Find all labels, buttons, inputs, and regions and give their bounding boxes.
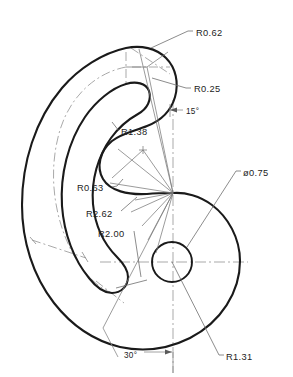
dim-label-r025: R0.25 bbox=[194, 84, 221, 94]
band-width-centerline bbox=[32, 240, 86, 258]
dim-label-15deg: 15° bbox=[186, 107, 199, 116]
leader-r025 bbox=[152, 78, 191, 88]
slot-arc-centerline bbox=[54, 67, 126, 292]
radius-line-r262 bbox=[118, 149, 173, 193]
dim-label-r200: R2.00 bbox=[98, 229, 125, 239]
dim-label-30deg: 30° bbox=[124, 351, 137, 360]
leader-slot-bottom bbox=[116, 280, 147, 288]
leader-r131 bbox=[172, 262, 224, 355]
cad-drawing-canvas: R0.62 R0.25 15° R1.38 R0.63 R2.62 R2.00 … bbox=[0, 0, 293, 377]
radius-line-r062 bbox=[147, 52, 168, 67]
leader-d075 bbox=[187, 171, 241, 247]
dim-label-r131: R1.31 bbox=[226, 352, 253, 362]
dim-label-r062: R0.62 bbox=[196, 28, 223, 38]
leader-r138 bbox=[112, 122, 119, 131]
cad-drawing-svg: R0.62 R0.25 15° R1.38 R0.63 R2.62 R2.00 … bbox=[0, 0, 293, 377]
dim-label-r063: R0.63 bbox=[77, 183, 104, 193]
radius-line-r138 bbox=[112, 150, 143, 178]
leader-r200 bbox=[134, 231, 141, 277]
leader-r063 bbox=[112, 179, 123, 187]
leader-r062 bbox=[151, 31, 193, 48]
slot-profile bbox=[62, 83, 150, 293]
radius-line-r200b bbox=[131, 193, 173, 212]
radius-line-30deg bbox=[103, 193, 173, 328]
arrowhead-30deg bbox=[165, 350, 172, 355]
outer-top-cap-centerline bbox=[131, 48, 170, 74]
radius-line-top-outer bbox=[139, 49, 173, 193]
dim-label-r262: R2.62 bbox=[86, 209, 113, 219]
tick-band-outer bbox=[30, 237, 36, 244]
dim-label-d075: ø0.75 bbox=[243, 168, 269, 178]
dim-label-r138: R1.38 bbox=[121, 127, 148, 137]
leader-r262 bbox=[121, 197, 137, 211]
centerlines-group bbox=[32, 48, 248, 373]
